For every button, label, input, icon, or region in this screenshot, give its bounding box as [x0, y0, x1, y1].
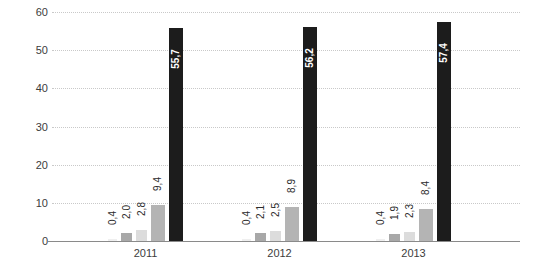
- bar-value-label: 0,4: [376, 212, 386, 226]
- plot-area: 0,42,02,89,455,70,42,12,58,956,20,41,92,…: [52, 12, 520, 241]
- bar-value-label: 2,0: [122, 205, 132, 219]
- bar-value-label: 2,3: [405, 204, 415, 218]
- y-axis-tick-label: 30: [4, 121, 48, 132]
- bar-rect: [151, 205, 165, 241]
- bar-value-label: 8,4: [421, 181, 431, 195]
- bar-value-label: 55,7: [171, 50, 181, 69]
- bar-rect: [255, 233, 266, 241]
- y-axis-tick-label: 40: [4, 83, 48, 94]
- bar-rect: [404, 232, 415, 241]
- gridline: [52, 12, 520, 13]
- x-axis-group-label: 2012: [267, 247, 291, 259]
- bar-value-label: 56,2: [305, 48, 315, 67]
- y-axis-tick-label: 10: [4, 197, 48, 208]
- bar-value-label: 0,4: [242, 212, 252, 226]
- bar-rect: [136, 230, 147, 241]
- bar-value-label: 2,5: [271, 204, 281, 218]
- y-axis: 0102030405060: [0, 12, 48, 241]
- bar-chart: 0102030405060 0,42,02,89,455,70,42,12,58…: [0, 0, 547, 261]
- x-axis-baseline: [48, 241, 520, 242]
- bar-value-label: 57,4: [439, 43, 449, 62]
- y-axis-tick-label: 50: [4, 45, 48, 56]
- bar-value-label: 9,4: [153, 177, 163, 191]
- bar-value-label: 0,4: [108, 212, 118, 226]
- bar-rect: [270, 231, 281, 241]
- x-axis-group-label: 2013: [401, 247, 425, 259]
- bar-value-label: 2,8: [137, 202, 147, 216]
- y-axis-tick-label: 60: [4, 7, 48, 18]
- x-axis-group-label: 2011: [134, 247, 158, 259]
- y-axis-tick-label: 0: [4, 236, 48, 247]
- bar-rect: [389, 234, 400, 241]
- bar-value-label: 2,1: [256, 205, 266, 219]
- bar-rect: [121, 233, 132, 241]
- bar-rect: [285, 207, 299, 241]
- bar-rect: [419, 209, 433, 241]
- bar-value-label: 8,9: [287, 179, 297, 193]
- y-axis-tick-label: 20: [4, 159, 48, 170]
- bar-value-label: 1,9: [390, 206, 400, 220]
